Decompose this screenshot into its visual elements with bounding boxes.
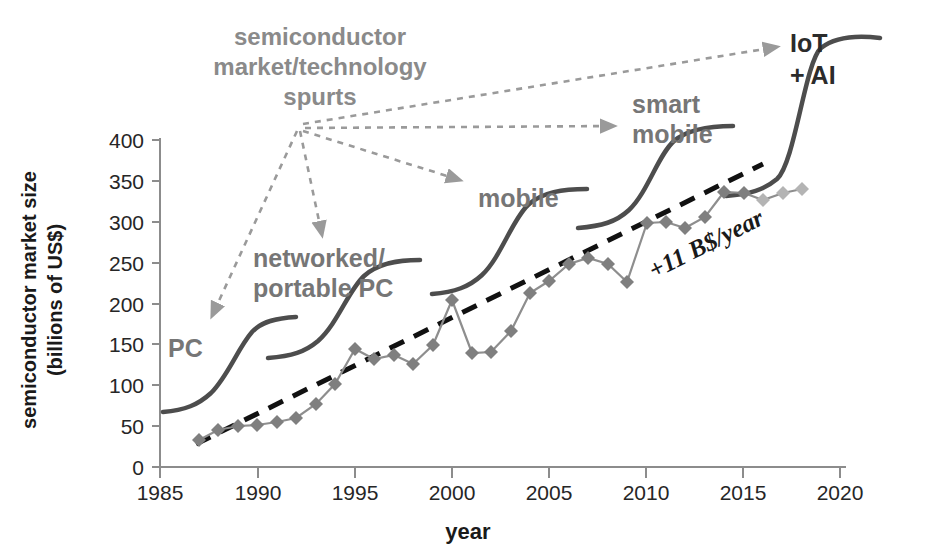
s-curves-group xyxy=(163,37,880,412)
y-tick-label: 300 xyxy=(109,211,144,234)
era-label-networked-line1: networked/ xyxy=(253,244,385,272)
y-axis-title: semiconductor market size (billions of U… xyxy=(18,171,66,429)
data-marker xyxy=(581,251,595,265)
y-tick-marks xyxy=(152,140,160,467)
y-axis-title-line1: semiconductor market size xyxy=(18,171,40,429)
callout-line-3: spurts xyxy=(283,83,356,110)
era-label-networked-line2: portable PC xyxy=(253,274,393,302)
x-tick-marks xyxy=(160,467,840,478)
y-axis-title-line2: (billions of US$) xyxy=(44,224,66,376)
y-tick-label: 50 xyxy=(121,415,144,438)
s-curve-pc xyxy=(163,317,296,412)
data-marker xyxy=(756,193,770,207)
y-tick-label: 250 xyxy=(109,252,144,275)
data-marker xyxy=(678,221,692,235)
x-tick-label: 1995 xyxy=(332,481,379,504)
era-label-mobile: mobile xyxy=(478,184,559,212)
y-tick-label: 400 xyxy=(109,129,144,152)
data-marker xyxy=(737,186,751,200)
era-label-smart-line1: smart xyxy=(632,90,701,118)
era-label-pc: PC xyxy=(168,334,203,362)
data-marker xyxy=(795,182,809,196)
x-tick-label: 1985 xyxy=(137,481,184,504)
data-markers-group xyxy=(192,182,809,447)
data-marker xyxy=(231,419,245,433)
x-tick-label: 2010 xyxy=(623,481,670,504)
y-tick-labels: 400 350 300 250 200 150 100 50 0 xyxy=(109,129,144,479)
data-marker xyxy=(250,418,264,432)
era-label-smart-line2: mobile xyxy=(632,120,713,148)
y-tick-label: 0 xyxy=(132,456,144,479)
callout-block: semiconductor market/technology spurts xyxy=(213,23,427,110)
callout-line-1: semiconductor xyxy=(234,23,406,50)
era-label-iot-line1: IoT xyxy=(790,29,828,57)
x-tick-label: 2005 xyxy=(526,481,573,504)
y-tick-label: 100 xyxy=(109,374,144,397)
data-marker xyxy=(776,186,790,200)
callout-line-2: market/technology xyxy=(213,53,427,80)
semiconductor-market-chart: 400 350 300 250 200 150 100 50 0 1985 19… xyxy=(0,0,952,555)
y-tick-label: 200 xyxy=(109,293,144,316)
x-tick-labels: 1985 1990 1995 2000 2005 2010 2015 2020 xyxy=(137,481,864,504)
chart-container: 400 350 300 250 200 150 100 50 0 1985 19… xyxy=(0,0,952,555)
y-tick-label: 150 xyxy=(109,333,144,356)
x-tick-label: 2015 xyxy=(720,481,767,504)
x-tick-label: 2020 xyxy=(817,481,864,504)
x-tick-label: 1990 xyxy=(235,481,282,504)
arrow-to-smart-mobile xyxy=(305,126,614,128)
data-marker xyxy=(640,216,654,230)
x-axis-title: year xyxy=(445,519,491,544)
data-marker xyxy=(387,348,401,362)
data-marker xyxy=(270,415,284,429)
data-marker xyxy=(211,423,225,437)
arrow-to-networked-pc xyxy=(300,131,322,235)
data-marker xyxy=(348,342,362,356)
data-marker xyxy=(192,433,206,447)
data-marker xyxy=(523,286,537,300)
data-marker xyxy=(465,346,479,360)
era-label-iot-line2: + AI xyxy=(790,61,836,89)
data-marker xyxy=(289,411,303,425)
arrow-to-mobile xyxy=(303,131,460,180)
y-tick-label: 350 xyxy=(109,170,144,193)
data-marker xyxy=(445,293,459,307)
x-tick-label: 2000 xyxy=(429,481,476,504)
